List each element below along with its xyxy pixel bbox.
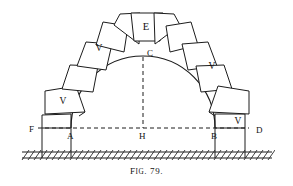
ground [22, 150, 275, 160]
caption-smallcaps: IG [136, 168, 145, 176]
figure-container: E V V V V A B C D F H FIG. 79. [0, 0, 293, 186]
voussoir-label-right-lower: V [235, 116, 242, 126]
voussoir-joints [79, 112, 215, 116]
voussoir-label-left-upper: V [96, 43, 103, 53]
caption-suffix: . 79. [144, 166, 163, 176]
arch-diagram: E V V V V A B C D F H [0, 0, 293, 186]
voussoir-label-right-upper: V [209, 61, 216, 71]
point-label-F: F [29, 124, 34, 134]
voussoir-label-left-lower: V [60, 96, 67, 106]
point-label-C: C [147, 48, 153, 58]
point-label-H: H [139, 131, 146, 141]
point-label-B: B [211, 131, 217, 141]
voussoir-block [62, 65, 98, 92]
figure-caption: FIG. 79. [0, 166, 293, 176]
point-label-A: A [67, 131, 74, 141]
keystone-label: E [143, 21, 149, 32]
point-label-D: D [256, 125, 263, 135]
